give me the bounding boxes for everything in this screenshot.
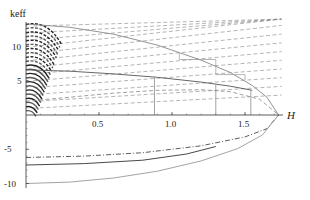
y-tick-label: -5	[4, 144, 12, 154]
x-tick-label: 0.5	[92, 119, 104, 129]
dashed-curve	[33, 19, 281, 40]
dashed-curve	[33, 19, 281, 26]
dashed-curve	[33, 69, 281, 88]
step-segment	[179, 53, 216, 67]
ripple-arc	[26, 65, 49, 78]
x-tick-label: 1.0	[165, 119, 177, 129]
vertical-markers	[154, 53, 250, 115]
x-tick-label: 1.5	[238, 119, 250, 129]
y-tick-label: -10	[4, 179, 16, 189]
ripple-arc	[26, 48, 54, 64]
ripple-arc	[26, 111, 36, 117]
y-tick-label: 5	[17, 76, 22, 86]
dashed-curve-family	[33, 19, 281, 108]
y-axis-label: keff	[10, 8, 27, 19]
y-tick-label: 10	[12, 42, 22, 52]
dashed-curve	[33, 95, 281, 108]
dashed-curve	[33, 78, 281, 95]
dashed-curve	[33, 34, 281, 60]
dashed-curve	[33, 19, 281, 33]
series-line	[26, 90, 279, 115]
series-line	[26, 147, 216, 166]
chart-canvas: 0.51.01.5-10-5510 keff H	[0, 0, 310, 200]
series-line	[26, 24, 279, 115]
dashed-curve	[33, 19, 281, 46]
x-axis-label: H	[286, 109, 296, 121]
